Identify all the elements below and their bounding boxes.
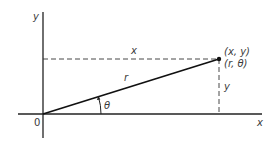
x-axis-label: x <box>256 117 263 128</box>
origin-label: 0 <box>34 117 40 128</box>
angle-label: θ <box>104 100 110 111</box>
vertical-distance-label: y <box>223 81 231 92</box>
horizontal-distance-label: x <box>130 45 137 56</box>
polar-coordinates-diagram: y x 0 x y r θ (x, y) (r, θ) <box>0 0 276 145</box>
y-axis-label: y <box>32 11 40 22</box>
polar-point-label: (r, θ) <box>224 58 247 69</box>
point-marker <box>217 57 221 61</box>
radius-line <box>43 59 219 114</box>
radius-label: r <box>124 72 129 83</box>
cartesian-point-label: (x, y) <box>224 46 250 57</box>
